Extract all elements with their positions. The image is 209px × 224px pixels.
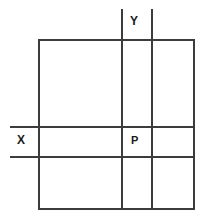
label-y: Y bbox=[130, 15, 138, 27]
label-x: X bbox=[17, 134, 25, 146]
figure-svg bbox=[0, 0, 209, 224]
outer-rectangle bbox=[39, 40, 194, 209]
figure-canvas: Y X P bbox=[0, 0, 209, 224]
label-p: P bbox=[131, 135, 138, 146]
